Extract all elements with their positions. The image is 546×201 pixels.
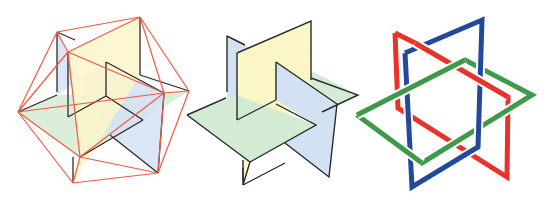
golden-rectangles-figure xyxy=(187,21,358,185)
diagram-stage xyxy=(0,0,546,201)
diagram-canvas xyxy=(0,0,546,201)
icosahedron-edge xyxy=(140,17,189,91)
red-weave xyxy=(415,43,508,97)
icosahedron-edge xyxy=(73,173,158,183)
borromean-rings-figure xyxy=(357,20,532,187)
icosahedron-figure xyxy=(18,17,189,183)
